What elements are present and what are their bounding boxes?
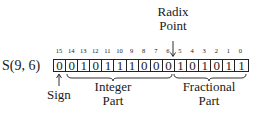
fractional-label-line-2: Part: [175, 94, 243, 108]
integer-label-line-2: Part: [85, 94, 141, 108]
fractional-label-line-1: Fractional: [175, 80, 243, 94]
fractional-part-label: Fractional Part: [175, 80, 243, 108]
integer-label-line-1: Integer: [85, 80, 141, 94]
radix-arrow-icon: [171, 41, 176, 57]
sign-label: Sign: [47, 88, 71, 102]
integer-part-label: Integer Part: [85, 80, 141, 108]
sign-arrow-icon: [57, 74, 62, 86]
